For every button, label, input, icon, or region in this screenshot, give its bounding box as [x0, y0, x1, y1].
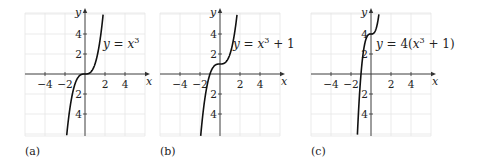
x-tick-label: −2	[192, 78, 207, 90]
y-tick-label: 2	[75, 48, 82, 60]
y-tick-label: 4	[75, 108, 82, 120]
x-tick-label: −2	[57, 78, 72, 90]
y-axis-label: y	[74, 6, 82, 19]
y-axis-arrow-icon	[369, 8, 373, 13]
y-tick-label: 2	[361, 88, 368, 100]
panel-a: xy−4−2244224y = x3(a)	[25, 6, 153, 158]
y-tick-label: 4	[210, 28, 217, 40]
y-axis-arrow-icon	[83, 8, 87, 13]
panel-caption: (c)	[311, 145, 326, 158]
panel-caption: (a)	[25, 145, 40, 158]
x-tick-label: −2	[343, 78, 358, 90]
y-axis-label: y	[209, 6, 217, 19]
y-tick-label: 2	[75, 88, 82, 100]
function-curve	[201, 15, 237, 136]
x-tick-label: 2	[102, 78, 109, 90]
y-axis-arrow-icon	[218, 8, 222, 13]
y-tick-label: 2	[210, 88, 217, 100]
figure: xy−4−2244224y = x3(a) xy−4−2244224y = x3…	[0, 0, 477, 168]
x-tick-label: 4	[122, 78, 129, 90]
x-tick-label: 4	[257, 78, 264, 90]
x-axis-label: x	[432, 75, 439, 88]
y-tick-label: 4	[210, 108, 217, 120]
x-tick-label: 2	[237, 78, 244, 90]
x-tick-label: 4	[408, 78, 415, 90]
equation-label: y = x3 + 1	[232, 36, 295, 51]
panel-b: xy−4−2244224y = x3 + 1(b)	[160, 6, 295, 158]
x-tick-label: −4	[37, 78, 53, 90]
equation-label: y = 4(x3 + 1)	[375, 36, 455, 51]
y-tick-label: 4	[361, 28, 368, 40]
equation-label: y = x3	[102, 36, 139, 51]
panel-caption: (b)	[160, 145, 176, 158]
y-axis-label: y	[360, 6, 368, 19]
y-tick-label: 4	[361, 108, 368, 120]
x-tick-label: −4	[172, 78, 188, 90]
x-axis-label: x	[146, 75, 153, 88]
x-axis-label: x	[281, 75, 288, 88]
x-tick-label: −4	[323, 78, 339, 90]
x-tick-label: 2	[388, 78, 395, 90]
y-tick-label: 2	[210, 48, 217, 60]
panel-c: xy−4−2244224y = 4(x3 + 1)(c)	[311, 6, 455, 158]
y-tick-label: 4	[75, 28, 82, 40]
